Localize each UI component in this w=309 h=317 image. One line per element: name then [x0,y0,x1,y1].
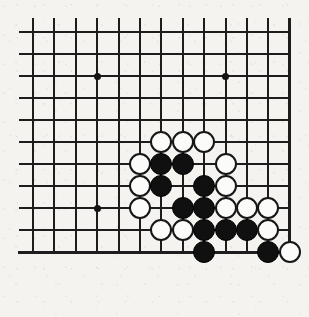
black-stone [150,175,172,197]
star-point [94,73,101,80]
black-stone [257,241,279,263]
grid-line-horizontal [19,31,291,33]
go-board-diagram [0,0,309,317]
star-point [94,205,101,212]
black-stone [193,197,215,219]
white-stone [129,197,151,219]
black-stone [193,175,215,197]
black-stone [172,153,194,175]
black-stone [236,219,258,241]
black-stone [172,197,194,219]
white-stone [257,197,279,219]
white-stone [215,175,237,197]
white-stone [236,197,258,219]
board-grid [0,0,309,317]
white-stone [215,153,237,175]
white-stone [172,131,194,153]
white-stone [279,241,301,263]
grid-line-horizontal [19,97,291,99]
white-stone [193,131,215,153]
star-point [222,73,229,80]
grid-line-horizontal [19,53,291,55]
black-stone [193,219,215,241]
white-stone [257,219,279,241]
board-edge-line-bottom [18,251,291,254]
black-stone [215,219,237,241]
white-stone [150,219,172,241]
white-stone [129,175,151,197]
black-stone [193,241,215,263]
grid-line-horizontal [19,75,291,77]
black-stone [150,153,172,175]
white-stone [150,131,172,153]
grid-line-horizontal [19,119,291,121]
white-stone [215,197,237,219]
white-stone [172,219,194,241]
white-stone [129,153,151,175]
